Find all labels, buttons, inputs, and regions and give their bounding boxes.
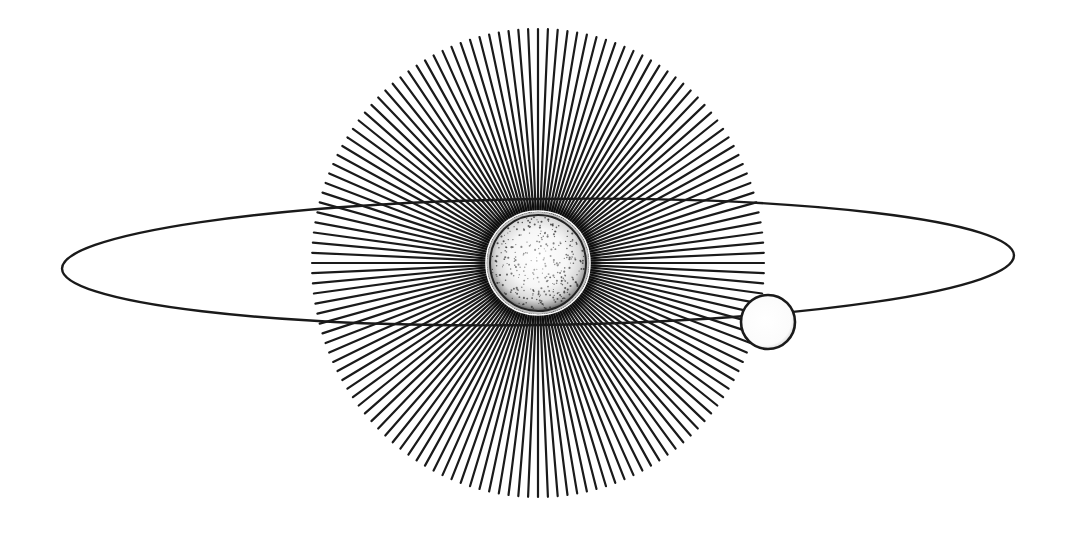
orbit-diagram	[0, 0, 1073, 533]
star-ray	[359, 295, 497, 406]
star-ray	[579, 295, 717, 406]
star-ray	[359, 121, 497, 232]
diagram-canvas	[0, 0, 1073, 533]
star-core	[490, 215, 586, 311]
star-ray	[579, 121, 717, 232]
star-ray	[570, 304, 676, 448]
planet	[741, 295, 795, 349]
